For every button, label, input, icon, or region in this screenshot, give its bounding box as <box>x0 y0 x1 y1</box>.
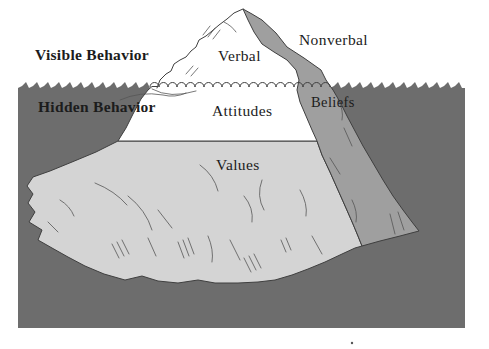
label-attitudes: Attitudes <box>212 103 272 119</box>
iceberg-values-body <box>27 141 362 283</box>
label-verbal: Verbal <box>218 48 261 64</box>
print-speck <box>351 342 353 344</box>
iceberg-diagram: Visible Behavior Hidden Behavior Verbal … <box>0 0 489 349</box>
label-visible-behavior: Visible Behavior <box>35 47 149 63</box>
label-hidden-behavior: Hidden Behavior <box>38 99 156 115</box>
label-beliefs: Beliefs <box>311 95 355 110</box>
label-nonverbal: Nonverbal <box>299 32 368 48</box>
label-values: Values <box>216 157 260 173</box>
